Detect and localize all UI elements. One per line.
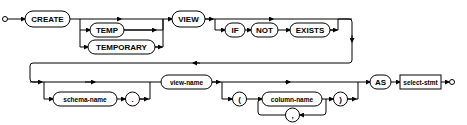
dot-separator: .: [126, 92, 140, 106]
svg-text:TEMPORARY: TEMPORARY: [96, 43, 147, 52]
schema-name-nonterminal: schema-name: [53, 92, 117, 106]
svg-text:): ): [339, 95, 342, 104]
keyword-as: AS: [370, 75, 391, 89]
svg-text:select-stmt: select-stmt: [403, 79, 438, 86]
close-paren: ): [334, 92, 348, 106]
column-name-nonterminal: column-name: [262, 92, 322, 106]
svg-text:NOT: NOT: [256, 26, 273, 35]
start-terminal-icon: [3, 17, 8, 22]
comma-separator: ,: [286, 108, 300, 122]
svg-text:CREATE: CREATE: [31, 15, 64, 24]
open-paren: (: [233, 92, 247, 106]
svg-text:schema-name: schema-name: [63, 96, 107, 103]
keyword-not: NOT: [251, 23, 278, 37]
svg-text:VIEW: VIEW: [178, 15, 199, 24]
svg-text:EXISTS: EXISTS: [296, 26, 325, 35]
keyword-if: IF: [225, 23, 245, 37]
keyword-view: VIEW: [172, 11, 205, 27]
svg-text:.: .: [131, 95, 133, 104]
create-view-syntax-diagram: CREATE TEMP TEMPORARY VIEW IF NOT EXISTS: [0, 0, 467, 125]
svg-text:view-name: view-name: [170, 79, 204, 86]
keyword-create: CREATE: [25, 11, 70, 27]
svg-text:TEMP: TEMP: [96, 26, 119, 35]
keyword-temporary: TEMPORARY: [88, 40, 155, 54]
keyword-temp: TEMP: [90, 23, 124, 37]
select-stmt-nonterminal: select-stmt: [400, 75, 441, 89]
svg-text:(: (: [238, 95, 241, 104]
svg-text:AS: AS: [375, 78, 387, 87]
svg-text:,: ,: [291, 111, 293, 120]
svg-text:column-name: column-name: [271, 96, 314, 103]
end-terminal-icon: [450, 80, 455, 85]
svg-text:IF: IF: [231, 26, 238, 35]
keyword-exists: EXISTS: [290, 23, 330, 37]
view-name-nonterminal: view-name: [161, 75, 212, 89]
